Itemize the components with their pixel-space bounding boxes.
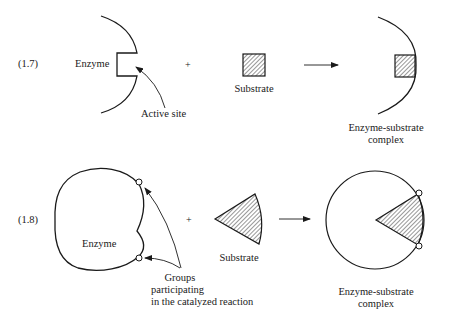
substrate-label-1-7: Substrate (234, 83, 273, 94)
plus-sign-1-7: + (185, 59, 191, 70)
diagram-drawing (0, 0, 452, 313)
substrate-1-8-wedge (215, 194, 262, 244)
groups-label-line3: in the catalyzed reaction (151, 296, 253, 307)
complex-label-1-7-line1: Enzyme-substrate (348, 122, 423, 133)
substrate-label-1-8: Substrate (219, 252, 258, 263)
enzyme-label-1-7: Enzyme (75, 58, 109, 69)
active-site-label: Active site (141, 108, 186, 119)
complex-label-1-8-line1: Enzyme-substrate (338, 286, 413, 297)
catalytic-group-bottom (136, 255, 142, 261)
enzyme-label-1-8: Enzyme (82, 238, 116, 249)
enzyme-1-8-shape (55, 168, 144, 270)
catalytic-group-top (136, 179, 142, 185)
equation-number-1-8: (1.8) (18, 214, 38, 225)
plus-sign-1-8: + (186, 214, 192, 225)
groups-label-line1: Groups (165, 272, 196, 283)
substrate-1-7-square (243, 54, 265, 76)
active-site-arrow (136, 67, 165, 108)
enzyme-substrate-diagram: (1.7) Enzyme + Active site Substrate Enz… (0, 0, 452, 313)
complex-1-8-shape (326, 171, 424, 269)
complex-label-1-7-line2: complex (368, 134, 404, 145)
complex-1-7-shape (378, 17, 416, 114)
complex-label-1-8-line2: complex (358, 298, 394, 309)
groups-arrows (145, 188, 181, 268)
equation-number-1-7: (1.7) (18, 58, 38, 69)
groups-label-line2: participating (151, 284, 204, 295)
